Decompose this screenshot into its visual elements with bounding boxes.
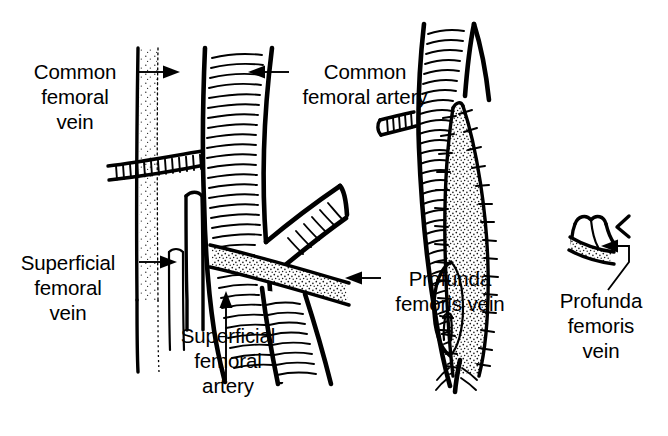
label-superficial-femoral-artery-line3: artery: [202, 374, 255, 397]
label-superficial-femoral-artery-line2: femoral: [194, 349, 262, 372]
label-profunda-femoris-vein-right-line2: femoris: [568, 314, 635, 337]
label-superficial-femoral-vein-line3: vein: [49, 301, 86, 324]
anatomy-illustration: Common femoral vein Common femoral arter…: [0, 0, 668, 436]
label-profunda-femoris-vein-left-line2: femoris vein: [395, 292, 504, 315]
figure-root: Common femoral vein Common femoral arter…: [0, 0, 668, 436]
label-common-femoral-vein-line2: femoral: [41, 85, 109, 108]
superficial-femoral-vein-trunk: [137, 300, 138, 372]
label-common-femoral-vein-line3: vein: [56, 110, 93, 133]
label-common-femoral-artery-line1: Common: [324, 60, 407, 83]
label-superficial-femoral-vein-line1: Superficial: [21, 251, 116, 274]
vein-stump-wall-left: [186, 196, 187, 330]
ostium-branch-3: [451, 317, 452, 340]
label-profunda-femoris-vein-left-line1: Profunda: [409, 267, 492, 290]
label-common-femoral-artery-line2: femoral artery: [302, 85, 428, 108]
vein-stump-wall-right: [202, 196, 203, 330]
label-common-femoral-vein-line1: Common: [34, 60, 117, 83]
vein-stump2-wall-left: [169, 252, 170, 350]
label-superficial-femoral-vein-line2: femoral: [34, 276, 102, 299]
label-profunda-femoris-vein-right-line3: vein: [582, 339, 619, 362]
label-superficial-femoral-artery-line1: Superficial: [181, 324, 276, 347]
ostium-branch-4: [440, 330, 450, 331]
label-profunda-femoris-vein-right-line1: Profunda: [560, 289, 643, 312]
